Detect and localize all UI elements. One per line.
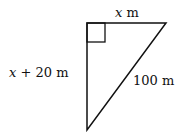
hypotenuse-label: 100 m <box>133 74 174 87</box>
top-side-unit: m <box>122 5 138 20</box>
left-side-expression: + 20 m <box>16 65 68 80</box>
top-side-label: x m <box>115 6 139 19</box>
right-angle-marker <box>87 23 105 42</box>
left-side-label: x + 20 m <box>9 66 69 79</box>
